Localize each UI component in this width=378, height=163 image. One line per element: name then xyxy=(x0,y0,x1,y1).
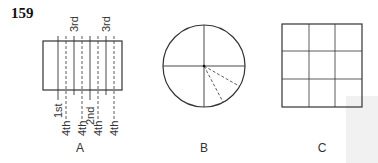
label-1st: 1st xyxy=(52,103,64,118)
figure-number: 159 xyxy=(11,5,34,21)
panel-label-c: C xyxy=(318,141,327,155)
panel-label-b: B xyxy=(200,141,208,155)
label-4th-c: 4th xyxy=(92,121,104,136)
square-c xyxy=(282,24,362,107)
label-4th-d: 4th xyxy=(108,121,120,136)
center-dot xyxy=(203,65,206,68)
label-4th-a: 4th xyxy=(60,121,72,136)
rectangle-a xyxy=(43,41,122,90)
label-3rd-a: 3rd xyxy=(68,16,80,32)
panel-a: 3rd 3rd 1st 4th 4th 2nd 4th 4th A xyxy=(43,16,122,155)
label-3rd-b: 3rd xyxy=(100,16,112,32)
panel-c: C xyxy=(282,24,362,155)
panel-b: B xyxy=(163,25,245,155)
panel-label-a: A xyxy=(76,141,84,155)
